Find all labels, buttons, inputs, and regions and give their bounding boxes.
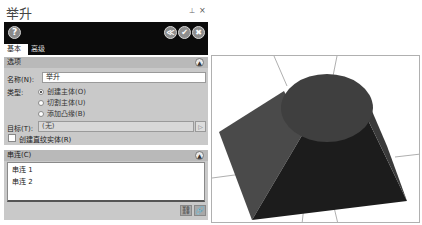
target-input[interactable]: (无) — [38, 121, 194, 132]
options-section-title: 选项 — [7, 58, 21, 66]
tab-bar: 基本 高级 — [4, 44, 208, 55]
ok-button[interactable]: ✔ — [178, 26, 191, 39]
radio-label: 添加凸缘(B) — [47, 110, 85, 118]
cancel-button[interactable]: ✖ — [192, 26, 205, 39]
name-label: 名称(N): — [7, 74, 34, 84]
ruled-solid-label: 创建直纹实体(R) — [19, 134, 71, 144]
options-section: 选项 ▲ 名称(N): 举升 类型: 创建主体(O) 切割主体(U) 添加凸缘(… — [4, 57, 208, 145]
dialog-title-bar: 举升 ⊥ × — [0, 0, 208, 22]
close-icon[interactable]: × — [199, 6, 206, 15]
target-label: 目标(T): — [7, 123, 33, 133]
ruled-solid-checkbox[interactable] — [8, 134, 16, 142]
collapse-icon[interactable]: ▲ — [195, 58, 204, 67]
options-section-header[interactable]: 选项 ▲ — [4, 57, 208, 68]
type-label: 类型: — [7, 87, 23, 97]
chain-section-title: 串连(C) — [7, 151, 31, 159]
type-radio-cut-body[interactable]: 切割主体(U) — [38, 97, 86, 107]
chain-add-button[interactable]: ⛓ — [180, 205, 192, 216]
loft-solid-model — [212, 56, 420, 223]
chain-list[interactable]: 串连 1 串连 2 — [7, 162, 205, 202]
tab-basic[interactable]: 基本 — [4, 44, 28, 55]
radio-label: 切割主体(U) — [47, 99, 86, 107]
chain-section: 串连(C) ▲ 串连 1 串连 2 ⛓ 🔗 — [4, 150, 208, 220]
name-input[interactable]: 举升 — [42, 72, 206, 83]
lift-dialog-panel: 举升 ⊥ × ? ≪ ✔ ✖ 基本 高级 选项 ▲ 名称(N): 举升 类型: … — [0, 0, 208, 225]
collapse-icon[interactable]: ▲ — [195, 151, 204, 160]
list-item[interactable]: 串连 2 — [8, 177, 204, 187]
list-item[interactable]: 串连 1 — [8, 165, 204, 175]
pin-icon[interactable]: ⊥ — [189, 7, 195, 15]
tab-advanced[interactable]: 高级 — [28, 44, 48, 55]
help-button[interactable]: ? — [8, 26, 21, 39]
radio-icon — [38, 100, 44, 106]
preview-button[interactable]: ≪ — [164, 26, 177, 39]
radio-label: 创建主体(O) — [47, 88, 86, 96]
radio-icon — [38, 111, 44, 117]
radio-icon — [38, 89, 44, 95]
type-radio-create-body[interactable]: 创建主体(O) — [38, 86, 86, 96]
graphics-viewport[interactable] — [211, 55, 420, 223]
dialog-toolbar: ? ≪ ✔ ✖ — [4, 22, 208, 44]
chain-section-header[interactable]: 串连(C) ▲ — [4, 150, 208, 161]
select-target-button[interactable]: ▷ — [195, 121, 206, 132]
dialog-title: 举升 — [6, 3, 32, 22]
chain-link-button[interactable]: 🔗 — [194, 205, 206, 216]
type-radio-add-boss[interactable]: 添加凸缘(B) — [38, 108, 85, 118]
